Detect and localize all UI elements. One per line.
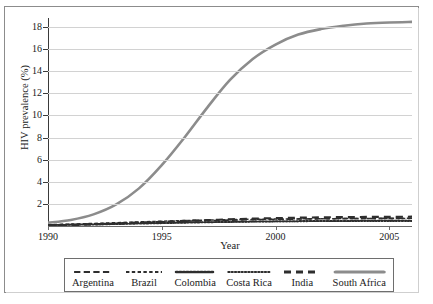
x-tick [276,226,277,230]
y-tick [43,49,48,50]
legend-swatch-long-dash [72,267,114,276]
legend-label: Colombia [174,278,215,289]
y-tick [43,27,48,28]
y-axis-title: HIV prevalence (%) [19,43,30,173]
gridline [48,49,412,50]
legend-swatch-thick-long-dash [282,267,322,276]
gridline [48,138,412,139]
gridline [48,182,412,183]
clipped-page-text [0,0,433,4]
y-tick [43,93,48,94]
y-tick-label: 10 [21,110,42,120]
legend-label: Brazil [131,278,157,289]
legend-label: Costa Rica [226,278,272,289]
chart-page: HIV prevalence (%) 246810121416181990199… [0,0,433,304]
x-tick [48,226,49,230]
y-tick-label: 18 [21,22,42,32]
y-tick [43,160,48,161]
legend-label: South Africa [333,278,386,289]
gridline [48,204,412,205]
x-tick [389,226,390,230]
x-axis-title: Year [48,240,412,251]
chart-legend: ArgentinaBrazilColombiaCosta RicaIndiaSo… [64,258,394,292]
y-tick [43,182,48,183]
legend-item-india[interactable]: India [282,267,322,289]
x-tick [162,226,163,230]
x-axis-line [48,226,412,227]
y-tick-label: 2 [21,199,42,209]
legend-label: Argentina [72,278,114,289]
y-tick [43,138,48,139]
y-tick [43,71,48,72]
legend-swatch-dotted [226,267,272,276]
y-tick-label: 4 [21,177,42,187]
figure: HIV prevalence (%) 246810121416181990199… [4,6,419,293]
legend-swatch-thick-solid [333,267,386,276]
gridline [48,160,412,161]
gridline [48,27,412,28]
y-tick-label: 6 [21,155,42,165]
legend-item-colombia[interactable]: Colombia [174,267,215,289]
y-tick [43,204,48,205]
legend-item-argentina[interactable]: Argentina [72,267,114,289]
gridline [48,93,412,94]
y-tick-label: 12 [21,88,42,98]
legend-swatch-bead [174,267,215,276]
y-tick-label: 8 [21,133,42,143]
series-line-south-africa [48,22,412,223]
gridline [48,115,412,116]
plot-area: 246810121416181990199520002005 [48,18,412,226]
legend-item-brazil[interactable]: Brazil [124,267,164,289]
y-tick-label: 16 [21,44,42,54]
gridline [48,71,412,72]
legend-swatch-dash [124,267,164,276]
legend-item-costa-rica[interactable]: Costa Rica [226,267,272,289]
y-tick [43,115,48,116]
legend-item-south-africa[interactable]: South Africa [333,267,386,289]
y-tick-label: 14 [21,66,42,76]
legend-label: India [291,278,313,289]
